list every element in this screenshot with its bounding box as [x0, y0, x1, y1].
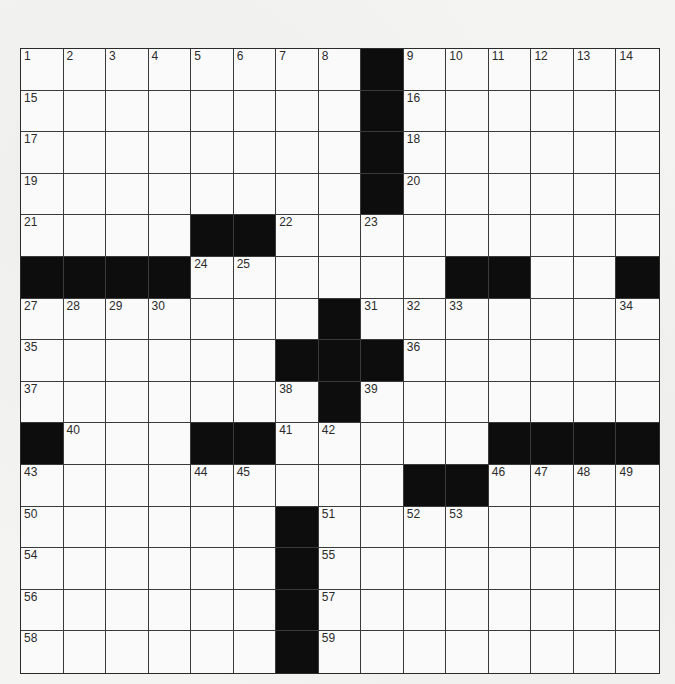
grid-cell[interactable]: 24 — [191, 257, 234, 299]
grid-cell[interactable] — [234, 91, 277, 133]
grid-cell[interactable] — [234, 590, 277, 632]
grid-cell[interactable] — [616, 590, 659, 632]
grid-cell[interactable] — [531, 174, 574, 216]
grid-cell[interactable] — [64, 507, 107, 549]
grid-cell[interactable] — [191, 590, 234, 632]
grid-cell[interactable]: 36 — [404, 340, 447, 382]
grid-cell[interactable] — [574, 257, 617, 299]
grid-cell[interactable] — [234, 132, 277, 174]
grid-cell[interactable] — [616, 91, 659, 133]
grid-cell[interactable] — [531, 299, 574, 341]
grid-cell[interactable] — [361, 507, 404, 549]
grid-cell[interactable] — [149, 590, 192, 632]
grid-cell[interactable] — [446, 631, 489, 673]
grid-cell[interactable]: 9 — [404, 49, 447, 91]
grid-cell[interactable] — [64, 631, 107, 673]
grid-cell[interactable]: 50 — [21, 507, 64, 549]
grid-cell[interactable] — [531, 590, 574, 632]
grid-cell[interactable] — [446, 132, 489, 174]
grid-cell[interactable]: 1 — [21, 49, 64, 91]
grid-cell[interactable] — [191, 174, 234, 216]
grid-cell[interactable] — [106, 215, 149, 257]
grid-cell[interactable] — [319, 465, 362, 507]
grid-cell[interactable] — [446, 423, 489, 465]
grid-cell[interactable] — [191, 631, 234, 673]
grid-cell[interactable] — [106, 507, 149, 549]
grid-cell[interactable]: 55 — [319, 548, 362, 590]
grid-cell[interactable] — [234, 299, 277, 341]
grid-cell[interactable]: 18 — [404, 132, 447, 174]
grid-cell[interactable]: 59 — [319, 631, 362, 673]
grid-cell[interactable]: 10 — [446, 49, 489, 91]
grid-cell[interactable] — [446, 382, 489, 424]
grid-cell[interactable] — [234, 340, 277, 382]
grid-cell[interactable]: 13 — [574, 49, 617, 91]
grid-cell[interactable]: 51 — [319, 507, 362, 549]
grid-cell[interactable] — [531, 257, 574, 299]
grid-cell[interactable] — [574, 340, 617, 382]
grid-cell[interactable] — [64, 132, 107, 174]
grid-cell[interactable] — [531, 382, 574, 424]
grid-cell[interactable]: 37 — [21, 382, 64, 424]
grid-cell[interactable]: 27 — [21, 299, 64, 341]
grid-cell[interactable] — [106, 423, 149, 465]
grid-cell[interactable] — [64, 340, 107, 382]
grid-cell[interactable] — [234, 382, 277, 424]
grid-cell[interactable] — [446, 590, 489, 632]
grid-cell[interactable] — [616, 132, 659, 174]
grid-cell[interactable] — [276, 91, 319, 133]
grid-cell[interactable]: 49 — [616, 465, 659, 507]
grid-cell[interactable]: 56 — [21, 590, 64, 632]
grid-cell[interactable]: 3 — [106, 49, 149, 91]
grid-cell[interactable]: 21 — [21, 215, 64, 257]
grid-cell[interactable] — [616, 215, 659, 257]
grid-cell[interactable] — [404, 590, 447, 632]
grid-cell[interactable]: 46 — [489, 465, 532, 507]
grid-cell[interactable] — [531, 215, 574, 257]
grid-cell[interactable] — [149, 548, 192, 590]
grid-cell[interactable] — [191, 507, 234, 549]
grid-cell[interactable] — [404, 215, 447, 257]
grid-cell[interactable]: 28 — [64, 299, 107, 341]
grid-cell[interactable] — [489, 299, 532, 341]
grid-cell[interactable] — [64, 215, 107, 257]
grid-cell[interactable] — [446, 174, 489, 216]
grid-cell[interactable]: 33 — [446, 299, 489, 341]
grid-cell[interactable] — [574, 548, 617, 590]
grid-cell[interactable] — [319, 132, 362, 174]
grid-cell[interactable] — [319, 257, 362, 299]
grid-cell[interactable]: 41 — [276, 423, 319, 465]
grid-cell[interactable] — [106, 382, 149, 424]
grid-cell[interactable] — [616, 340, 659, 382]
grid-cell[interactable] — [574, 382, 617, 424]
grid-cell[interactable]: 5 — [191, 49, 234, 91]
grid-cell[interactable] — [361, 423, 404, 465]
grid-cell[interactable]: 17 — [21, 132, 64, 174]
grid-cell[interactable] — [531, 132, 574, 174]
grid-cell[interactable] — [149, 174, 192, 216]
grid-cell[interactable] — [489, 590, 532, 632]
grid-cell[interactable]: 7 — [276, 49, 319, 91]
grid-cell[interactable]: 29 — [106, 299, 149, 341]
grid-cell[interactable] — [574, 631, 617, 673]
grid-cell[interactable]: 14 — [616, 49, 659, 91]
grid-cell[interactable] — [149, 382, 192, 424]
grid-cell[interactable]: 2 — [64, 49, 107, 91]
grid-cell[interactable] — [64, 590, 107, 632]
grid-cell[interactable] — [106, 132, 149, 174]
grid-cell[interactable] — [446, 215, 489, 257]
grid-cell[interactable] — [616, 548, 659, 590]
grid-cell[interactable]: 25 — [234, 257, 277, 299]
grid-cell[interactable] — [446, 340, 489, 382]
grid-cell[interactable]: 35 — [21, 340, 64, 382]
grid-cell[interactable]: 43 — [21, 465, 64, 507]
grid-cell[interactable] — [234, 631, 277, 673]
grid-cell[interactable] — [149, 507, 192, 549]
grid-cell[interactable] — [106, 631, 149, 673]
grid-cell[interactable]: 22 — [276, 215, 319, 257]
grid-cell[interactable] — [574, 91, 617, 133]
grid-cell[interactable] — [404, 548, 447, 590]
grid-cell[interactable] — [361, 548, 404, 590]
grid-cell[interactable] — [106, 340, 149, 382]
grid-cell[interactable]: 57 — [319, 590, 362, 632]
